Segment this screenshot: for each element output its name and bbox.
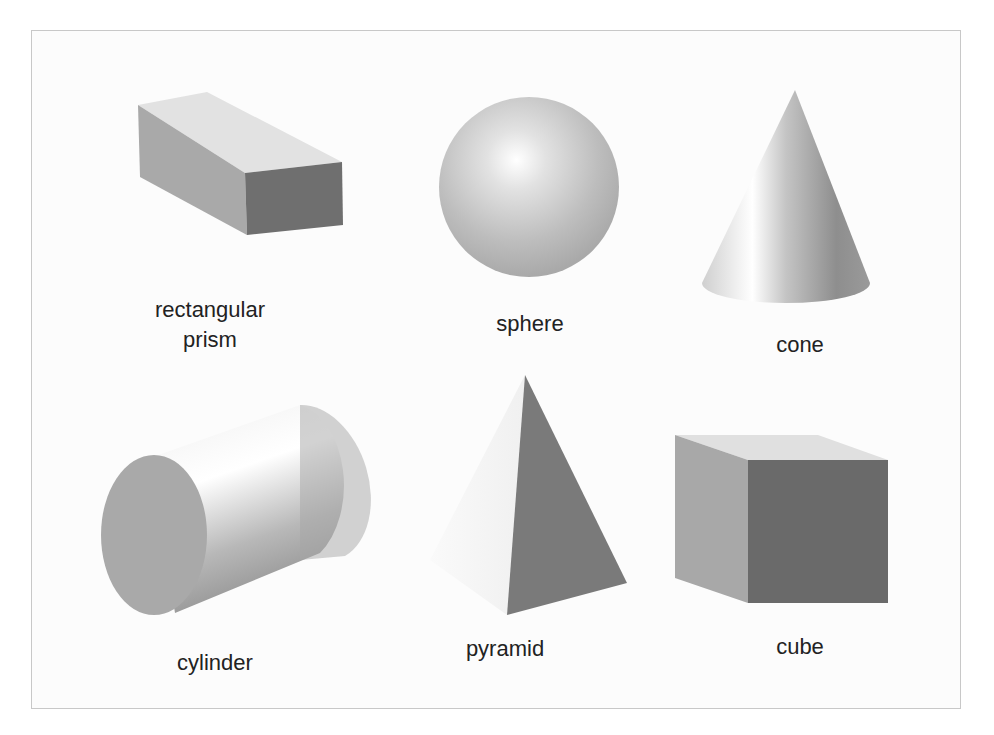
- label-line: pyramid: [440, 634, 570, 664]
- pyramid-dark-face: [507, 375, 627, 615]
- label-line: cube: [740, 632, 860, 662]
- label-sphere: sphere: [460, 309, 600, 339]
- rectangular-prism-shape: [138, 92, 343, 235]
- label-cube: cube: [740, 632, 860, 662]
- prism-front-face: [245, 162, 343, 235]
- label-line: sphere: [460, 309, 600, 339]
- label-pyramid: pyramid: [440, 634, 570, 664]
- label-line: rectangular: [125, 295, 295, 325]
- label-line: cylinder: [150, 648, 280, 678]
- cube-front-face: [748, 460, 888, 603]
- pyramid-shape: [430, 375, 627, 615]
- sphere-shape: [439, 97, 619, 277]
- cone-shape: [702, 90, 870, 303]
- label-cylinder: cylinder: [150, 648, 280, 678]
- label-rectangular-prism: rectangular prism: [125, 295, 295, 355]
- shapes-canvas: [0, 0, 994, 735]
- cube-side-face: [675, 435, 748, 603]
- cylinder-shade: [300, 405, 371, 560]
- label-line: prism: [125, 325, 295, 355]
- cube-shape: [675, 435, 888, 603]
- cylinder-end-face: [101, 455, 207, 615]
- cone-body: [702, 90, 870, 303]
- label-line: cone: [740, 330, 860, 360]
- label-cone: cone: [740, 330, 860, 360]
- sphere-body: [439, 97, 619, 277]
- cylinder-shape: [101, 405, 371, 615]
